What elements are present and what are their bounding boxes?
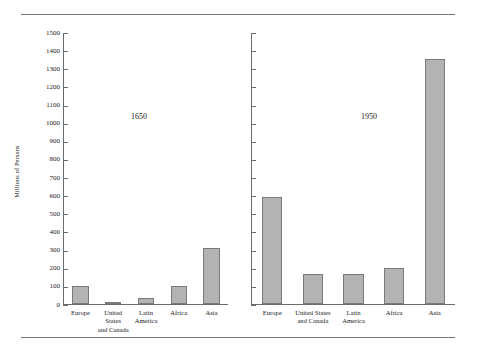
y-tick-label-1200: 1200 bbox=[20, 84, 60, 91]
panel-1950 bbox=[252, 33, 455, 305]
bar-1650-asia bbox=[203, 248, 219, 304]
y-tick-label-600: 600 bbox=[20, 193, 60, 200]
baseline-1650 bbox=[64, 304, 228, 305]
category-label-1950-africa: Africa bbox=[374, 309, 415, 317]
category-label-1950-europe: Europe bbox=[252, 309, 293, 317]
bar-1650-latin-america bbox=[138, 298, 154, 304]
y-tick-label-700: 700 bbox=[20, 175, 60, 182]
bar-1650-africa bbox=[171, 286, 187, 304]
category-label-1950-asia: Asia bbox=[414, 309, 455, 317]
panel-annotation-1650: 1650 bbox=[104, 112, 174, 121]
y-tick-label-200: 200 bbox=[20, 265, 60, 272]
chart-figure: Millions of Persons 01002003004005006007… bbox=[0, 0, 477, 351]
category-label-1650-europe: Europe bbox=[64, 309, 97, 317]
panel-1650 bbox=[64, 33, 228, 305]
y-tick-label-1100: 1100 bbox=[20, 102, 60, 109]
y-axis-title: Millions of Persons bbox=[13, 107, 20, 237]
bar-1950-africa bbox=[384, 268, 404, 304]
bar-1950-united-states-and-canada bbox=[303, 274, 323, 304]
bar-1650-europe bbox=[72, 286, 88, 304]
y-tick-label-300: 300 bbox=[20, 247, 60, 254]
bar-1950-asia bbox=[425, 59, 445, 304]
category-label-1650-asia: Asia bbox=[195, 309, 228, 317]
y-tick-right-0 bbox=[251, 305, 256, 306]
y-tick-0 bbox=[63, 305, 68, 306]
y-tick-label-1400: 1400 bbox=[20, 48, 60, 55]
y-tick-label-500: 500 bbox=[20, 211, 60, 218]
y-tick-label-1500: 1500 bbox=[20, 30, 60, 37]
bottom-rule bbox=[21, 337, 455, 338]
category-label-1950-latin-america: Latin America bbox=[333, 309, 374, 326]
y-tick-label-800: 800 bbox=[20, 156, 60, 163]
bar-1950-latin-america bbox=[343, 274, 363, 304]
y-tick-label-1300: 1300 bbox=[20, 66, 60, 73]
y-tick-label-400: 400 bbox=[20, 229, 60, 236]
y-tick-label-100: 100 bbox=[20, 283, 60, 290]
category-label-1650-latin-america: Latin America bbox=[130, 309, 163, 326]
panel-annotation-1950: 1950 bbox=[334, 112, 404, 121]
top-rule bbox=[21, 14, 455, 15]
category-label-1650-united-states-and-canada: United States and Canada bbox=[97, 309, 130, 334]
category-label-1650-africa: Africa bbox=[162, 309, 195, 317]
baseline-1950 bbox=[252, 304, 455, 305]
y-tick-label-0: 0 bbox=[20, 302, 60, 309]
y-tick-label-1000: 1000 bbox=[20, 120, 60, 127]
category-label-1950-united-states-and-canada: United States and Canada bbox=[293, 309, 334, 326]
bar-1950-europe bbox=[262, 197, 282, 304]
bar-1650-united-states-and-canada bbox=[105, 302, 121, 304]
y-tick-label-900: 900 bbox=[20, 138, 60, 145]
